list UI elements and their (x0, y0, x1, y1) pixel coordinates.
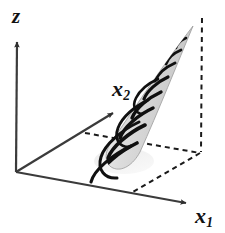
axis-label-x2-text: x (112, 76, 123, 101)
figure-canvas: z x2 x1 (0, 0, 225, 233)
coordinate-diagram-svg (0, 0, 225, 233)
z-axis-line (16, 42, 17, 172)
vertical-dashed-drop (201, 18, 202, 152)
axis-label-x1-subscript: 1 (206, 215, 213, 230)
axis-label-z: z (12, 6, 20, 27)
axis-label-x1: x1 (195, 205, 213, 227)
axis-label-x2-subscript: 2 (123, 88, 130, 103)
axes-group (16, 42, 186, 203)
axis-label-x2: x2 (112, 78, 130, 100)
axis-label-x1-text: x (195, 203, 206, 228)
axis-label-z-text: z (12, 4, 20, 28)
